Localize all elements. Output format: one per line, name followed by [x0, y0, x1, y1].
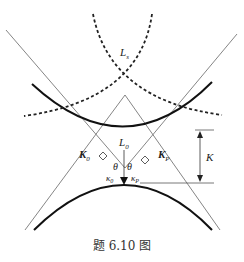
- svg-text:κP: κP: [131, 173, 139, 184]
- svg-text:KP: KP: [157, 148, 170, 163]
- dashed-curve-right: [24, 14, 152, 116]
- svg-text:K0: K0: [78, 148, 90, 163]
- upper-hyperbola-curve: [32, 82, 212, 127]
- figure-caption: 题 6.10 图: [0, 236, 244, 253]
- svg-text:κ0: κ0: [106, 173, 113, 184]
- label-K-distance: K: [205, 151, 214, 163]
- svg-text:Ls: Ls: [119, 46, 129, 61]
- right-asymptote-line: [125, 34, 237, 168]
- right-angle-marker-right: [141, 156, 149, 164]
- label-L-0: L: [118, 136, 125, 148]
- k-arrow-bottom: [197, 175, 203, 182]
- k-arrow-top: [197, 131, 203, 138]
- label-theta-right: θ: [127, 161, 132, 172]
- right-angle-marker-left: [99, 152, 107, 160]
- label-theta-left: θ: [113, 161, 118, 172]
- label-L-s: L: [119, 46, 126, 58]
- dashed-curve-left: [93, 14, 222, 115]
- svg-text:L0: L0: [118, 136, 129, 151]
- lower-hyperbola-curve: [34, 185, 212, 230]
- diffraction-diagram: Ls L0 K0 KP K θ θ κ0 κP: [0, 0, 244, 262]
- center-arrowhead: [120, 177, 128, 185]
